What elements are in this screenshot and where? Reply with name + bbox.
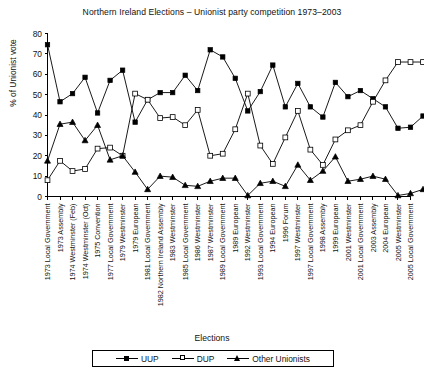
- legend-label-other-unionists: Other Unionists: [252, 354, 310, 364]
- x-tick-label: 2005 Local Government: [406, 204, 415, 281]
- svg-text:0: 0: [37, 192, 42, 202]
- data-point: [183, 73, 187, 77]
- x-tick-label: 1973 Local Government: [43, 204, 52, 281]
- data-point: [145, 97, 150, 102]
- chart-legend: UUP DUP Other Unionists: [92, 350, 334, 367]
- legend-item-uup: UUP: [116, 354, 159, 364]
- x-tick-label: 1977 Local Government: [106, 204, 115, 281]
- svg-text:20: 20: [33, 151, 43, 161]
- x-tick-label: 1979 European: [131, 204, 140, 253]
- x-tick-label: 1974 Westminster (Oct): [81, 204, 90, 280]
- data-point: [308, 147, 313, 152]
- svg-text:70: 70: [33, 49, 43, 59]
- data-point: [383, 78, 388, 83]
- data-point: [321, 115, 325, 119]
- data-point: [70, 91, 74, 95]
- x-tick-label: 2004 European: [381, 204, 390, 253]
- svg-text:60: 60: [33, 69, 43, 79]
- legend-label-uup: UUP: [141, 354, 159, 364]
- data-point: [133, 120, 137, 124]
- x-tick-label: 1997 Local Government: [306, 204, 315, 281]
- data-point: [408, 60, 413, 65]
- x-tick-label: 1999 European: [331, 204, 340, 253]
- x-tick-label: 1993 Local Government: [256, 204, 265, 281]
- x-tick-label: 1992 Westminster: [243, 203, 252, 261]
- data-point: [170, 115, 175, 120]
- legend-item-other-unionists: Other Unionists: [227, 354, 310, 364]
- data-point: [332, 154, 338, 159]
- data-point: [333, 80, 337, 84]
- series-line-other-unionists: [48, 122, 424, 195]
- data-point: [370, 173, 376, 178]
- legend-marker-open-square-icon: [172, 354, 194, 363]
- data-point: [170, 90, 174, 94]
- data-point: [58, 158, 63, 163]
- y-axis: 01020304050607080: [33, 29, 48, 202]
- data-point: [45, 43, 49, 47]
- data-point: [420, 186, 424, 191]
- data-point: [283, 135, 288, 140]
- x-tick-label: 1975 Convention: [93, 204, 102, 258]
- data-point: [295, 109, 300, 114]
- x-axis-label: Elections: [0, 333, 424, 343]
- data-point: [83, 167, 88, 172]
- data-point: [95, 111, 99, 115]
- x-tick-label: 1974 Westminster (Feb): [68, 204, 77, 281]
- data-point: [45, 158, 51, 163]
- data-point: [58, 100, 62, 104]
- x-tick-label: 1982 Northern Ireland Assembly: [156, 203, 165, 306]
- svg-text:30: 30: [33, 130, 43, 140]
- legend-item-dup: DUP: [172, 354, 215, 364]
- x-tick-label: 1983 Westminster: [168, 203, 177, 261]
- data-point: [408, 125, 412, 129]
- data-point: [195, 108, 200, 113]
- data-point: [245, 91, 250, 96]
- chart-figure: Northern Ireland Elections – Unionist pa…: [0, 0, 424, 376]
- x-tick-label: 1986 Westminster: [193, 203, 202, 261]
- data-point: [383, 105, 387, 109]
- x-tick-label: 1979 Westminster: [118, 203, 127, 261]
- data-point: [182, 182, 188, 187]
- x-tick-label: 1981 Local Government: [143, 204, 152, 281]
- data-series-group: [45, 43, 424, 198]
- data-point: [295, 162, 301, 167]
- data-point: [120, 68, 124, 72]
- x-tick-label: 1994 European: [268, 204, 277, 253]
- data-point: [258, 89, 262, 93]
- data-point: [346, 128, 351, 133]
- x-axis-tick-labels: 1973 Local Government1973 Assembly1974 W…: [43, 203, 415, 306]
- legend-marker-filled-square-icon: [116, 354, 138, 363]
- data-point: [157, 173, 163, 178]
- data-point: [208, 48, 212, 52]
- data-point: [133, 91, 138, 96]
- legend-label-dup: DUP: [197, 354, 215, 364]
- x-tick-label: 1996 Forum: [281, 204, 290, 243]
- data-point: [83, 75, 87, 79]
- data-point: [271, 63, 275, 67]
- svg-text:10: 10: [33, 171, 43, 181]
- x-tick-label: 1997 Westminster: [293, 203, 302, 261]
- data-point: [358, 123, 363, 128]
- plot-area: 01020304050607080 1973 Local Government1…: [0, 0, 424, 376]
- data-point: [270, 178, 276, 183]
- data-point: [220, 151, 225, 156]
- data-point: [283, 105, 287, 109]
- data-point: [95, 122, 101, 127]
- x-tick-label: 2003 Assembly: [369, 203, 378, 252]
- data-point: [70, 169, 75, 174]
- data-point: [158, 116, 163, 121]
- data-point: [158, 90, 162, 94]
- data-point: [396, 60, 401, 65]
- x-tick-label: 1998 Assembly: [318, 203, 327, 252]
- data-point: [183, 123, 188, 128]
- data-point: [396, 126, 400, 130]
- x-tick-label: 1989 European: [231, 204, 240, 253]
- data-point: [333, 137, 338, 142]
- data-point: [45, 178, 50, 183]
- x-tick-label: 1985 Local Government: [181, 204, 190, 281]
- data-point: [246, 109, 250, 113]
- data-point: [371, 99, 376, 104]
- data-point: [108, 78, 112, 82]
- x-tick-label: 2001 Westminster: [344, 203, 353, 261]
- x-axis: [48, 197, 411, 201]
